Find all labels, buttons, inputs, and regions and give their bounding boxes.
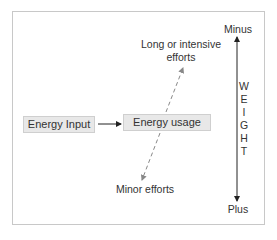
long-efforts-dashed-arrow xyxy=(166,68,183,112)
weight-axis-label: W E I G H T xyxy=(238,80,250,158)
weight-letter: W xyxy=(238,80,250,93)
minor-efforts-dashed-arrow xyxy=(142,133,160,180)
weight-letter: T xyxy=(238,145,250,158)
plus-label: Plus xyxy=(218,203,258,216)
minor-efforts-label: Minor efforts xyxy=(110,183,180,196)
energy-input-box: Energy Input xyxy=(23,116,95,133)
weight-letter: E xyxy=(238,93,250,106)
minus-label: Minus xyxy=(218,23,258,36)
weight-letter: G xyxy=(238,119,250,132)
long-efforts-label-line2: efforts xyxy=(140,51,222,64)
weight-letter: I xyxy=(238,106,250,119)
weight-letter: H xyxy=(238,132,250,145)
long-efforts-label-line1: Long or intensive xyxy=(140,38,222,51)
energy-usage-box: Energy usage xyxy=(123,114,211,131)
